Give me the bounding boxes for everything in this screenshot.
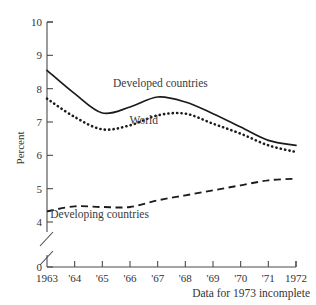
y-tick-label-9: 9 (37, 49, 43, 61)
y-tick-label-6: 6 (37, 149, 43, 161)
line-chart: 045678910 1963'64'65'66'67'68'69'70'7119… (0, 0, 316, 305)
x-tick-label-69: '69 (207, 272, 220, 284)
series-line-developing-countries (47, 179, 296, 212)
series-label-world: World (130, 114, 159, 126)
y-axis-title: Percent (14, 132, 26, 165)
series-annotations: Developed countriesWorldDeveloping count… (50, 77, 208, 221)
x-tick-label-65: '65 (96, 272, 109, 284)
x-tick-label-66: '66 (124, 272, 137, 284)
chart-figure: 045678910 1963'64'65'66'67'68'69'70'7119… (0, 0, 316, 305)
series-label-developed-countries: Developed countries (113, 77, 208, 90)
y-tick-label-4: 4 (37, 216, 43, 228)
x-tick-label-1963: 1963 (36, 272, 59, 284)
y-tick-label-5: 5 (37, 183, 43, 195)
x-tick-label-67: '67 (151, 272, 164, 284)
x-tick-label-71: '71 (262, 272, 275, 284)
x-tick-label-70: '70 (234, 272, 247, 284)
y-tick-label-7: 7 (37, 116, 43, 128)
x-axis-ticks: 1963'64'65'66'67'68'69'70'711972 (36, 261, 307, 284)
x-tick-label-1972: 1972 (285, 272, 307, 284)
series-label-developing-countries: Developing countries (50, 208, 149, 221)
y-tick-label-8: 8 (37, 83, 43, 95)
x-tick-label-68: '68 (179, 272, 192, 284)
y-tick-label-10: 10 (31, 16, 43, 28)
x-tick-label-64: '64 (68, 272, 81, 284)
chart-caption: Data for 1973 incomplete (192, 287, 310, 300)
y-axis-ticks: 045678910 (31, 16, 53, 273)
chart-axes (40, 22, 296, 267)
data-series (47, 70, 296, 211)
series-line-world (47, 99, 296, 152)
